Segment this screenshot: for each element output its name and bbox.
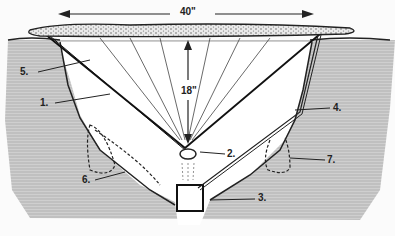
label-6: 6.	[82, 175, 90, 185]
label-5: 5.	[20, 67, 28, 77]
width-dimension: 40"	[180, 7, 196, 17]
label-2: 2.	[227, 149, 235, 159]
label-7: 7.	[327, 155, 335, 165]
collection-container	[177, 185, 203, 211]
label-4: 4.	[333, 103, 341, 113]
depth-dimension: 18"	[181, 86, 197, 96]
label-1: 1.	[40, 98, 48, 108]
solar-still-diagram: 40" 18" 5. 1. 2. 3. 4. 6. 7.	[0, 0, 395, 236]
diagram-drawing	[0, 0, 395, 236]
label-3: 3.	[258, 193, 266, 203]
center-rock	[180, 149, 196, 159]
rock-rim	[29, 24, 354, 37]
